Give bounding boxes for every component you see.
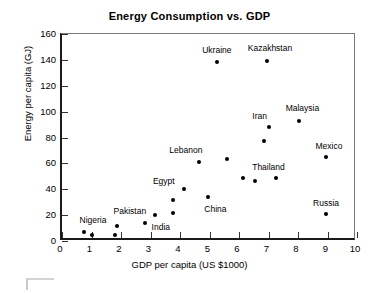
- x-axis-tick: [328, 232, 329, 238]
- x-axis-tick-label: 5: [205, 243, 210, 254]
- y-axis-tick-label: 100: [40, 105, 56, 116]
- data-point: [82, 230, 86, 234]
- x-axis-tick-label: 10: [350, 243, 361, 254]
- data-point-label: Nigeria: [80, 215, 107, 225]
- x-axis-tick: [357, 232, 358, 238]
- data-point: [143, 221, 147, 225]
- y-axis-tick: [62, 112, 68, 113]
- y-axis-tick-label: 40: [45, 183, 56, 194]
- y-axis-tick-label: 20: [45, 209, 56, 220]
- data-point: [262, 139, 266, 143]
- data-point-label: Mexico: [316, 141, 343, 151]
- y-axis-tick: [62, 60, 68, 61]
- x-axis-tick-label: 3: [146, 243, 151, 254]
- x-axis-tick-labels: 012345678910: [60, 243, 355, 257]
- data-point-label: Lebanon: [169, 145, 202, 155]
- y-axis-tick: [62, 215, 68, 216]
- chart-title: Energy Consumption vs. GDP: [0, 10, 379, 22]
- data-point: [171, 211, 175, 215]
- data-point-label: Malaysia: [286, 103, 320, 113]
- y-axis-tick-label: 80: [45, 131, 56, 142]
- data-point-label: India: [152, 222, 170, 232]
- y-axis-tick-labels: 020406080100120140160: [12, 33, 56, 240]
- scan-corner-artifact: [26, 278, 54, 290]
- x-axis-tick-label: 7: [264, 243, 269, 254]
- y-axis-tick-label: 0: [51, 235, 56, 246]
- data-point: [171, 198, 175, 202]
- x-axis-tick: [62, 232, 63, 238]
- x-axis-tick-label: 4: [175, 243, 180, 254]
- data-point: [324, 155, 328, 159]
- y-axis-title: Energy per capita (GJ): [22, 19, 33, 169]
- y-axis-tick: [62, 163, 68, 164]
- data-point-label: Pakistan: [114, 206, 147, 216]
- data-point-label: Iran: [252, 111, 267, 121]
- data-point: [297, 119, 301, 123]
- data-point-label: Thailand: [252, 162, 285, 172]
- data-point: [253, 179, 257, 183]
- data-point: [153, 213, 157, 217]
- y-axis-tick-label: 160: [40, 28, 56, 39]
- y-axis-tick-label: 120: [40, 79, 56, 90]
- x-axis-tick-label: 2: [116, 243, 121, 254]
- y-axis-tick: [62, 189, 68, 190]
- x-axis-title: GDP per capita (US $1000): [0, 259, 379, 270]
- data-point: [274, 176, 278, 180]
- data-point: [206, 195, 210, 199]
- y-axis-tick: [62, 34, 68, 35]
- data-point-label: Kazakhstan: [248, 43, 292, 53]
- data-point: [324, 212, 328, 216]
- x-axis-tick: [269, 232, 270, 238]
- chart-figure: Energy Consumption vs. GDP NigeriaPakist…: [0, 0, 379, 293]
- data-point: [241, 176, 245, 180]
- data-point-label: Ukraine: [202, 45, 231, 55]
- data-point: [90, 233, 94, 237]
- data-point: [197, 160, 201, 164]
- data-point: [225, 157, 229, 161]
- x-axis-tick: [180, 232, 181, 238]
- x-axis-tick: [151, 232, 152, 238]
- x-axis-tick-label: 6: [234, 243, 239, 254]
- x-axis-tick-label: 0: [57, 243, 62, 254]
- data-point-label: China: [204, 204, 226, 214]
- x-axis-tick-label: 1: [87, 243, 92, 254]
- x-axis-tick: [210, 232, 211, 238]
- data-point: [115, 224, 119, 228]
- x-axis-tick: [298, 232, 299, 238]
- data-point-label: Russia: [313, 198, 339, 208]
- x-axis-tick: [121, 232, 122, 238]
- x-axis-tick: [239, 232, 240, 238]
- plot-area: NigeriaPakistanIndiaEgyptChinaLebanonUkr…: [60, 33, 355, 240]
- data-point: [215, 60, 219, 64]
- y-axis-tick: [62, 241, 68, 242]
- data-point-label: Egypt: [153, 176, 175, 186]
- y-axis-tick-label: 140: [40, 53, 56, 64]
- y-axis-tick: [62, 86, 68, 87]
- x-axis-tick-label: 9: [323, 243, 328, 254]
- x-axis-tick-label: 8: [293, 243, 298, 254]
- data-point: [267, 125, 271, 129]
- data-point: [113, 233, 117, 237]
- data-point: [182, 187, 186, 191]
- y-axis-tick: [62, 138, 68, 139]
- data-point: [265, 59, 269, 63]
- y-axis-tick-label: 60: [45, 157, 56, 168]
